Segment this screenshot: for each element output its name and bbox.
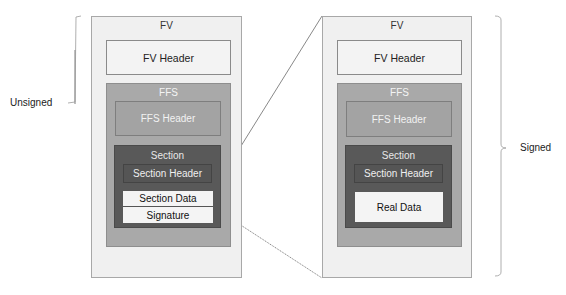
ffs-title: FFS	[107, 87, 230, 98]
ffs-header-unsigned: FFS Header	[115, 101, 221, 136]
unsigned-bracket	[68, 16, 81, 104]
section-title: Section	[346, 150, 451, 161]
fv-header-unsigned: FV Header	[106, 40, 231, 75]
signed-bracket	[495, 16, 506, 276]
real-data-box: Real Data	[355, 192, 443, 222]
signed-label: Signed	[520, 142, 551, 153]
connector-lines	[0, 0, 566, 295]
fv-title: FV	[323, 20, 471, 31]
section-header-unsigned: Section Header	[123, 164, 212, 183]
ffs-title: FFS	[338, 87, 461, 98]
section-title: Section	[115, 150, 220, 161]
section-header-signed: Section Header	[354, 164, 443, 183]
section-data-box: Section Data	[123, 191, 213, 207]
fv-title: FV	[92, 20, 241, 31]
signature-box: Signature	[123, 207, 213, 223]
ffs-header-signed: FFS Header	[346, 101, 452, 137]
fv-header-signed: FV Header	[337, 40, 462, 75]
